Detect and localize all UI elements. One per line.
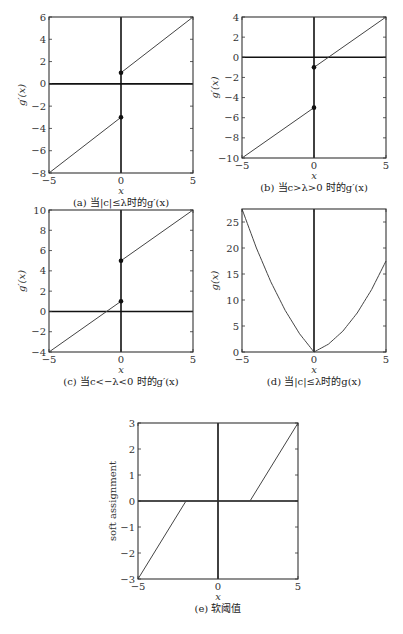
series-line <box>49 117 121 173</box>
y-tick-label: −4 <box>224 92 239 103</box>
data-point <box>119 258 124 263</box>
subplot-caption: (c) 当c<−λ<0 时的g′(x) <box>63 375 178 387</box>
y-tick-label: 10 <box>226 295 239 306</box>
y-tick-label: 4 <box>233 12 239 23</box>
y-tick-label: 0 <box>40 78 46 89</box>
subplot-e: −505−3−2−10123xsoft assignment(e) 软阈值 <box>107 418 301 615</box>
y-tick-label: −4 <box>31 123 46 134</box>
series-line <box>121 17 193 73</box>
y-tick-label: 6 <box>40 245 46 256</box>
x-tick-label: 5 <box>383 354 389 365</box>
y-tick-label: −2 <box>224 72 239 83</box>
y-tick-label: −2 <box>120 548 135 559</box>
y-tick-label: 2 <box>233 32 239 43</box>
y-tick-label: 3 <box>129 418 135 429</box>
y-tick-label: 4 <box>40 34 46 45</box>
y-tick-label: −8 <box>31 168 46 179</box>
data-point <box>119 299 124 304</box>
data-point <box>312 65 317 70</box>
y-tick-label: 5 <box>233 321 239 332</box>
y-axis-label: g′(x) <box>16 270 27 292</box>
series-line <box>49 301 121 352</box>
data-point <box>119 115 124 120</box>
y-tick-label: −2 <box>31 101 46 112</box>
series-line <box>242 209 314 352</box>
y-tick-label: −4 <box>31 347 46 358</box>
x-axis-label: x <box>311 364 317 375</box>
subplot-caption: (d) 当|c|≤λ时的g(x) <box>267 375 361 388</box>
y-tick-label: 0 <box>40 306 46 317</box>
subplot-c: −505−4−20246810xg′(x)(c) 当c<−λ<0 时的g′(x) <box>16 205 196 388</box>
subplot-caption: (b) 当c>λ>0 时的g′(x) <box>260 181 368 193</box>
y-axis-label: g′(x) <box>16 84 27 106</box>
y-tick-label: −6 <box>224 112 239 123</box>
y-axis-label: g(x) <box>209 270 220 290</box>
y-tick-label: 8 <box>40 225 46 236</box>
series-line <box>242 108 314 158</box>
x-axis-label: x <box>118 185 124 196</box>
x-tick-label: 5 <box>383 160 389 171</box>
y-tick-label: 2 <box>129 444 135 455</box>
y-axis-label: g′(x) <box>209 76 220 98</box>
y-tick-label: −2 <box>31 326 46 337</box>
x-axis-label: x <box>118 364 124 375</box>
y-tick-label: 25 <box>226 217 239 228</box>
y-tick-label: 15 <box>226 269 239 280</box>
subplot-a: −505−8−6−4−20246xg′(x)(a) 当|c|≤λ时的g′(x) <box>16 12 196 210</box>
y-tick-label: 0 <box>129 496 135 507</box>
x-tick-label: 5 <box>295 581 301 592</box>
data-point <box>312 105 317 110</box>
series-line <box>121 210 193 261</box>
x-axis-label: x <box>215 591 221 602</box>
y-tick-label: −6 <box>31 145 46 156</box>
series-line <box>314 261 386 352</box>
y-tick-label: −8 <box>224 132 239 143</box>
y-tick-label: 10 <box>33 205 46 216</box>
data-point <box>119 70 124 75</box>
subplot-d: −5050510152025xg(x)(d) 当|c|≤λ时的g(x) <box>209 209 389 388</box>
y-tick-label: −10 <box>218 153 239 164</box>
y-tick-label: 2 <box>40 286 46 297</box>
y-tick-label: 20 <box>226 243 239 254</box>
y-tick-label: 6 <box>40 12 46 23</box>
y-axis-label: soft assignment <box>107 461 118 541</box>
y-tick-label: 2 <box>40 56 46 67</box>
x-axis-label: x <box>311 170 317 181</box>
x-tick-label: 5 <box>190 354 196 365</box>
y-tick-label: 0 <box>233 52 239 63</box>
subplot-caption: (a) 当|c|≤λ时的g′(x) <box>73 196 169 209</box>
y-tick-label: 4 <box>40 265 46 276</box>
y-tick-label: 1 <box>129 470 135 481</box>
series-line <box>314 17 386 67</box>
y-tick-label: −3 <box>120 574 135 585</box>
figure-canvas: −505−8−6−4−20246xg′(x)(a) 当|c|≤λ时的g′(x)−… <box>0 0 403 634</box>
subplot-caption: (e) 软阈值 <box>195 602 242 614</box>
subplot-b: −505−10−8−6−4−2024xg′(x)(b) 当c>λ>0 时的g′(… <box>209 12 389 194</box>
y-tick-label: 0 <box>233 347 239 358</box>
x-tick-label: 5 <box>190 175 196 186</box>
y-tick-label: −1 <box>120 522 135 533</box>
